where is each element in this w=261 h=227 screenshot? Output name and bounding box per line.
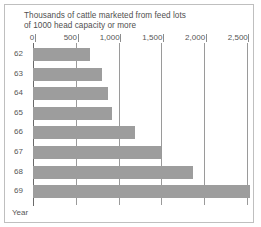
bar-67 [33, 146, 161, 159]
x-tick-label-500: 500 [64, 33, 77, 42]
bar-63 [33, 68, 101, 81]
y-tick-label-68: 68 [14, 167, 23, 176]
bar-chart-figure: Thousands of cattle marketed from feed l… [0, 0, 261, 227]
gridline-1000 [119, 43, 120, 205]
x-tick-label-2000: 2,000 [185, 33, 205, 42]
x-tick-mark-500 [78, 34, 79, 42]
x-tick-mark-1500 [163, 34, 164, 42]
x-tick-label-1000: 1,000 [100, 33, 120, 42]
bar-65 [33, 107, 112, 120]
y-tick-label-66: 66 [14, 127, 23, 136]
figure-border-top [4, 4, 254, 5]
x-tick-label-2500: 2,500 [228, 33, 248, 42]
x-tick-mark-2500 [248, 34, 249, 42]
x-tick-label-0: 0 [30, 33, 34, 42]
gridline-1500 [161, 43, 162, 205]
chart-title: Thousands of cattle marketed from feed l… [24, 11, 254, 30]
gridline-2000 [204, 43, 205, 205]
figure-border-left [4, 4, 5, 223]
y-axis-title: Year [12, 208, 28, 217]
y-tick-label-63: 63 [14, 69, 23, 78]
figure-border-bottom [4, 222, 254, 223]
x-tick-mark-1000 [120, 34, 121, 42]
gridline-2500 [247, 43, 248, 205]
y-tick-label-64: 64 [14, 88, 23, 97]
bar-68 [33, 166, 193, 179]
figure-border-right [253, 4, 254, 223]
y-tick-label-62: 62 [14, 49, 23, 58]
bar-64 [33, 87, 108, 100]
y-tick-label-65: 65 [14, 108, 23, 117]
x-tick-mark-0 [35, 34, 36, 42]
x-tick-label-1500: 1,500 [142, 33, 162, 42]
bar-69 [33, 185, 250, 198]
x-tick-mark-2000 [206, 34, 207, 42]
bar-66 [33, 126, 135, 139]
y-tick-label-67: 67 [14, 147, 23, 156]
bar-62 [33, 48, 89, 61]
y-tick-label-69: 69 [14, 186, 23, 195]
